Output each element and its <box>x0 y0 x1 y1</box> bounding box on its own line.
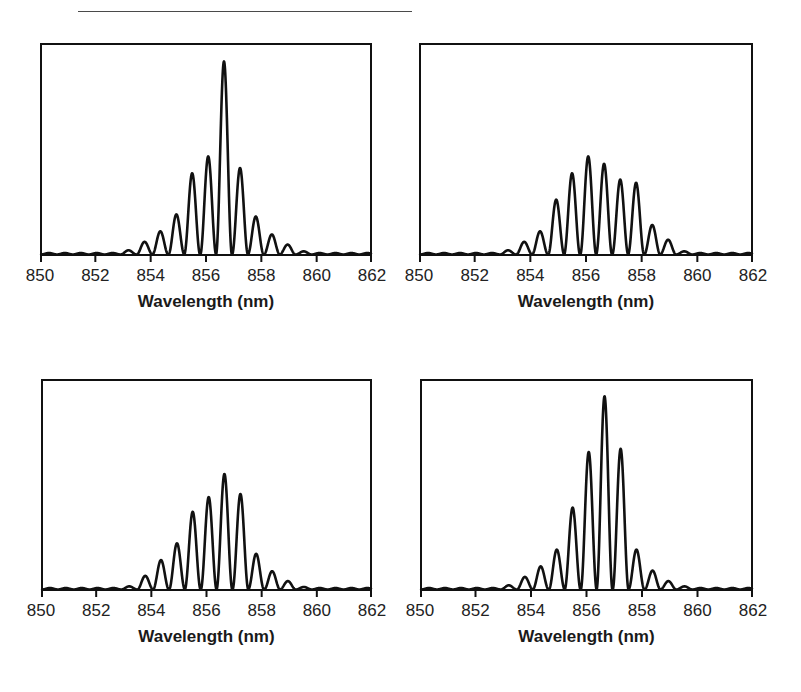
spectrum-curve <box>420 156 752 254</box>
plot-frame <box>41 44 371 255</box>
plot-area <box>420 379 753 591</box>
x-axis-ticks <box>421 590 752 597</box>
x-axis-title: Wavelength (nm) <box>420 628 753 645</box>
x-axis-tick-labels: 850 852 854 856 858 860 862 <box>419 267 753 284</box>
plot-frame <box>42 380 371 590</box>
x-tick-label: 860 <box>683 602 711 619</box>
x-axis-title: Wavelength (nm) <box>41 628 372 645</box>
plot-area <box>40 43 372 256</box>
x-tick-label: 854 <box>137 602 165 619</box>
x-tick-label: 856 <box>192 267 220 284</box>
x-axis-tick-labels: 850 852 854 856 858 860 862 <box>420 602 753 619</box>
x-tick-label: 850 <box>405 267 433 284</box>
x-tick-label: 852 <box>81 267 109 284</box>
x-tick-label: 858 <box>247 267 275 284</box>
x-tick-label: 858 <box>628 602 656 619</box>
top-rule <box>78 11 412 12</box>
x-tick-label: 856 <box>572 267 600 284</box>
x-axis-ticks <box>420 255 752 262</box>
x-axis-tick-labels: 850 852 854 856 858 860 862 <box>41 602 372 619</box>
spectrum-curve <box>41 61 371 254</box>
chart-panel-bottom-left: 850 852 854 856 858 860 862 Wavelength (… <box>41 379 372 591</box>
x-tick-label: 850 <box>406 602 434 619</box>
x-tick-label: 860 <box>302 267 330 284</box>
x-axis-ticks <box>41 255 371 262</box>
x-tick-label: 862 <box>358 267 386 284</box>
x-tick-label: 858 <box>627 267 655 284</box>
spectrum-curve <box>421 396 752 589</box>
chart-panel-top-left: 850 852 854 856 858 860 862 Wavelength (… <box>40 43 372 256</box>
x-tick-label: 860 <box>303 602 331 619</box>
x-tick-label: 850 <box>27 602 55 619</box>
x-tick-label: 854 <box>516 267 544 284</box>
spectrum-curve <box>42 474 371 589</box>
chart-panel-bottom-right: 850 852 854 856 858 860 862 Wavelength (… <box>420 379 753 591</box>
plot-area <box>41 379 372 591</box>
x-tick-label: 862 <box>739 267 767 284</box>
x-axis-title: Wavelength (nm) <box>419 293 753 310</box>
x-tick-label: 850 <box>26 267 54 284</box>
x-tick-label: 852 <box>460 267 488 284</box>
plot-frame <box>420 44 752 255</box>
x-tick-label: 856 <box>192 602 220 619</box>
x-axis-ticks <box>42 590 371 597</box>
x-tick-label: 854 <box>517 602 545 619</box>
x-axis-title: Wavelength (nm) <box>40 293 372 310</box>
x-tick-label: 856 <box>572 602 600 619</box>
x-tick-label: 852 <box>82 602 110 619</box>
x-tick-label: 858 <box>247 602 275 619</box>
x-tick-label: 860 <box>683 267 711 284</box>
plot-area <box>419 43 753 256</box>
chart-panel-top-right: 850 852 854 856 858 860 862 Wavelength (… <box>419 43 753 256</box>
x-tick-label: 862 <box>739 602 767 619</box>
x-tick-label: 852 <box>461 602 489 619</box>
x-axis-tick-labels: 850 852 854 856 858 860 862 <box>40 267 372 284</box>
x-tick-label: 854 <box>136 267 164 284</box>
x-tick-label: 862 <box>358 602 386 619</box>
